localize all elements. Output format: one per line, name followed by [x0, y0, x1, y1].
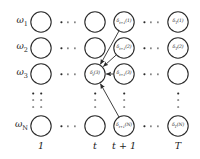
arrow-t1-2-to-t-3 — [103, 55, 116, 67]
node-label-n-T-N: δT(N) — [172, 123, 184, 129]
node-argument: (1) — [177, 18, 183, 23]
hdots-r2-c1 — [60, 47, 75, 49]
dot — [157, 125, 159, 127]
arrow-t1-N-to-t-3 — [100, 84, 119, 117]
dot — [74, 73, 76, 75]
dot — [74, 21, 76, 23]
node-n-1-N[interactable] — [31, 116, 51, 136]
node-argument: (1) — [125, 18, 131, 23]
dot — [150, 73, 152, 75]
row-index: 1 — [24, 20, 28, 28]
node-argument: (3) — [94, 70, 100, 75]
dot — [67, 125, 69, 127]
row-label-w1: ω1 — [17, 16, 28, 27]
node-n-t-N[interactable] — [85, 116, 105, 136]
dot — [150, 125, 152, 127]
dot — [67, 73, 69, 75]
node-argument: (N) — [125, 122, 132, 127]
dot — [40, 92, 42, 94]
dot — [60, 21, 62, 23]
vdots-col-1 — [40, 92, 42, 107]
row-label-wN: ωN — [15, 120, 28, 131]
dot — [123, 99, 125, 101]
dot — [177, 99, 179, 101]
dot — [143, 21, 145, 23]
row-index: 3 — [24, 72, 28, 80]
node-label-n-T-1: δT(1) — [172, 19, 183, 25]
row-index: 2 — [24, 46, 28, 54]
dot — [32, 106, 34, 108]
dot — [94, 99, 96, 101]
hdots-r3-c2 — [143, 73, 158, 75]
dot — [60, 73, 62, 75]
dot — [177, 92, 179, 94]
dot — [74, 125, 76, 127]
node-n-t-1[interactable] — [85, 12, 105, 32]
row-index: N — [22, 124, 28, 132]
column-label-col-t1: t + 1 — [112, 141, 136, 151]
dot — [74, 47, 76, 49]
dot — [94, 106, 96, 108]
dot — [32, 92, 34, 94]
vdots-col-row — [32, 92, 34, 107]
column-label-col-T: T — [175, 141, 181, 151]
dot — [157, 73, 159, 75]
node-label-n-T-2: δT(2) — [172, 45, 183, 51]
node-argument: (N) — [177, 122, 184, 127]
dot — [157, 21, 159, 23]
node-n-1-3[interactable] — [31, 64, 51, 84]
trellis-canvas — [0, 0, 200, 159]
row-label-w2: ω2 — [17, 42, 28, 53]
node-label-n-t1-2: δt+1(2) — [117, 45, 132, 51]
vdots-col-T — [177, 92, 179, 107]
node-argument: (2) — [125, 44, 131, 49]
dot — [123, 92, 125, 94]
dot — [40, 99, 42, 101]
dot — [67, 47, 69, 49]
dot — [150, 21, 152, 23]
node-label-n-t1-N: δt+1(N) — [116, 123, 132, 129]
hdots-r1-c1 — [60, 21, 75, 23]
hdots-rN-c1 — [60, 125, 75, 127]
hdots-r1-c2 — [143, 21, 158, 23]
hdots-r3-c1 — [60, 73, 75, 75]
vdots-col-t — [94, 92, 96, 107]
column-label-col-1: 1 — [38, 141, 44, 151]
node-n-1-1[interactable] — [31, 12, 51, 32]
node-argument: (2) — [177, 44, 183, 49]
dot — [143, 125, 145, 127]
node-argument: (3) — [125, 70, 131, 75]
dot — [60, 125, 62, 127]
hdots-r2-c2 — [143, 47, 158, 49]
dot — [67, 21, 69, 23]
dot — [150, 47, 152, 49]
hdots-rN-c2 — [143, 125, 158, 127]
dot — [40, 106, 42, 108]
dot — [60, 47, 62, 49]
node-n-1-2[interactable] — [31, 38, 51, 58]
dot — [143, 47, 145, 49]
node-n-t-2[interactable] — [85, 38, 105, 58]
node-label-n-t-3: δt(3) — [90, 71, 100, 77]
node-label-n-t1-1: δt+1(1) — [117, 19, 132, 25]
dot — [123, 106, 125, 108]
node-label-n-t1-3: δt+1(3) — [117, 71, 132, 77]
vdots-col-t1 — [123, 92, 125, 107]
node-n-T-3[interactable] — [168, 64, 188, 84]
column-label-col-t: t — [93, 141, 97, 151]
row-label-w3: ω3 — [17, 68, 28, 79]
dot — [32, 99, 34, 101]
trellis-figure: ω1ω2ω3ωN 1tt + 1T δt(3)δt+1(1)δt+1(2)δt+… — [0, 0, 200, 159]
dot — [143, 73, 145, 75]
dot — [157, 47, 159, 49]
dot — [94, 92, 96, 94]
dot — [177, 106, 179, 108]
